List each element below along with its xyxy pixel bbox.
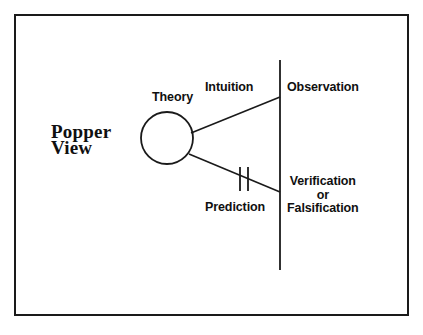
verification-label-line-3: Falsification (287, 202, 359, 216)
diagram-canvas: Popper View Theory Intuition Observation… (0, 0, 423, 335)
intuition-edge (191, 97, 280, 133)
verification-label-line-2: or (287, 189, 359, 203)
popper-view-title: Popper View (51, 124, 111, 156)
popper-view-title-line-2: View (51, 140, 111, 156)
theory-circle (141, 112, 193, 164)
verification-label-line-1: Verification (287, 175, 359, 189)
diagram-line-art (0, 0, 423, 335)
prediction-label: Prediction (205, 201, 265, 214)
observation-label: Observation (287, 81, 359, 94)
theory-label: Theory (152, 91, 193, 104)
prediction-edge (189, 154, 280, 192)
intuition-label: Intuition (205, 81, 253, 94)
verification-falsification-label: Verification or Falsification (287, 175, 359, 216)
